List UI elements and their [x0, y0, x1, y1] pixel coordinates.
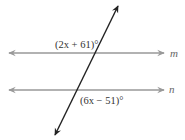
line-m-label: m: [170, 47, 178, 59]
line-n-label: n: [169, 83, 175, 95]
angle-label-bottom: (6x − 51)°: [80, 95, 123, 107]
transversal-line: [55, 6, 118, 135]
line-n: n: [9, 83, 175, 95]
angle-label-top: (2x + 61)°: [55, 39, 98, 51]
parallel-lines-diagram: m n (2x + 61)° (6x − 51)°: [0, 0, 185, 140]
